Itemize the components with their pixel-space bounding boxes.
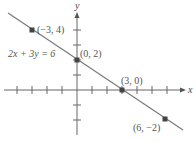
x-axis: x <box>4 84 193 95</box>
point-neg3-4 <box>30 28 35 33</box>
chart: x y (−3, 4) (0, 2) (3, 0) (6, −2) 2x + 3… <box>0 0 196 141</box>
y-axis-label: y <box>74 0 80 11</box>
point-3-0 <box>120 88 125 93</box>
x-axis-arrow-icon <box>180 88 186 93</box>
point-label-neg3-4: (−3, 4) <box>37 24 64 36</box>
equation-label: 2x + 3y = 6 <box>8 48 55 59</box>
y-axis-arrow-icon <box>75 12 80 18</box>
point-label-6-neg2: (6, −2) <box>133 122 160 134</box>
point-label-3-0: (3, 0) <box>121 75 143 87</box>
point-label-0-2: (0, 2) <box>80 48 102 60</box>
x-axis-label: x <box>187 84 193 95</box>
point-6-neg2 <box>163 117 168 122</box>
y-axis: y <box>73 0 81 135</box>
point-0-2 <box>75 58 80 63</box>
